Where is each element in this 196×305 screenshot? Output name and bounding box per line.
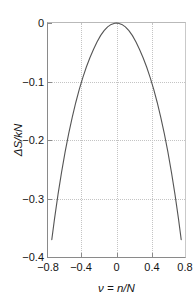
x-axis-title-text: ν = n/N [98,282,135,294]
x-tick-label: −0.4 [70,262,92,273]
plot-area: −0.8−0.400.40.80−0.1−0.2−0.3−0.4 [47,22,186,258]
y-tick-label: 0 [38,18,44,29]
y-tick-label: −0.2 [22,135,44,146]
y-tick-mark [48,257,52,258]
y-tick-label: −0.3 [22,193,44,204]
y-tick-label: −0.1 [22,76,44,87]
x-tick-label: 0 [113,262,119,273]
x-tick-label: −0.8 [37,262,59,273]
y-tick-label: −0.4 [22,252,44,263]
data-series-line [52,23,181,240]
curve-layer [48,23,185,257]
curve-svg [48,23,185,257]
x-tick-label: 0.4 [144,262,159,273]
x-tick-label: 0.8 [177,262,192,273]
chart-figure: ΔS/kN −0.8−0.400.40.80−0.1−0.2−0.3−0.4 ν… [0,0,196,305]
x-axis-title: ν = n/N [47,282,186,294]
